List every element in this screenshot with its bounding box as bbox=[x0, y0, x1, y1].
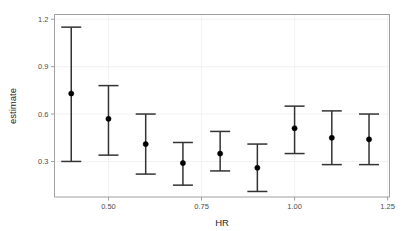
x-axis-tick-label: 0.75 bbox=[194, 202, 209, 211]
y-axis-title: estimate bbox=[7, 88, 18, 124]
data-point-marker bbox=[292, 126, 297, 131]
x-axis-title: HR bbox=[215, 217, 229, 228]
data-point-marker bbox=[329, 135, 334, 140]
chart-figure: 0.500.751.001.250.30.60.91.2 HR estimate bbox=[0, 0, 407, 231]
x-axis-tick-label: 0.50 bbox=[101, 202, 116, 211]
data-point-marker bbox=[255, 165, 260, 170]
y-axis-tick-label: 1.2 bbox=[38, 15, 48, 24]
data-point-marker bbox=[106, 116, 111, 121]
y-axis-tick-label: 0.6 bbox=[38, 110, 48, 119]
x-axis-tick-label: 1.25 bbox=[380, 202, 395, 211]
errorbar-plot: 0.500.751.001.250.30.60.91.2 HR estimate bbox=[0, 0, 407, 231]
data-point-marker bbox=[180, 160, 185, 165]
figure-background bbox=[0, 0, 407, 231]
x-axis-tick-label: 1.00 bbox=[287, 202, 302, 211]
data-point-marker bbox=[143, 141, 148, 146]
y-axis-tick-label: 0.3 bbox=[38, 157, 48, 166]
data-point-marker bbox=[69, 91, 74, 96]
y-axis-tick-label: 0.9 bbox=[38, 62, 48, 71]
data-point-marker bbox=[366, 137, 371, 142]
data-point-marker bbox=[218, 151, 223, 156]
